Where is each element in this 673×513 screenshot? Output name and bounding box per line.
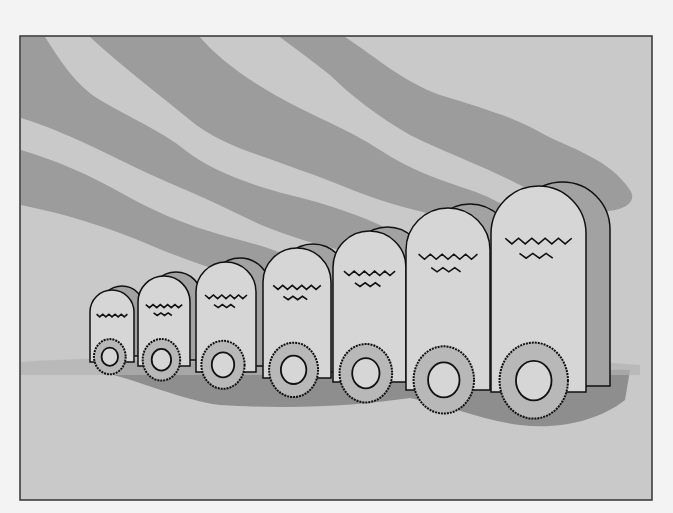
wreath-hole [212,352,234,377]
wreath-hole [102,348,118,366]
tombstone [491,182,610,419]
wreath-hole [152,349,171,371]
wreath-hole [352,358,379,388]
illustration [0,0,673,513]
wreath-hole [281,356,306,384]
wreath-hole [428,362,459,397]
wreath-hole [516,361,552,401]
